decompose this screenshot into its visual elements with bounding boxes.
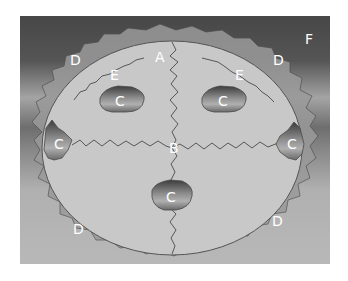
label-c-left: C: [54, 136, 64, 152]
label-a: A: [155, 49, 165, 65]
label-d-lower-right: D: [272, 213, 283, 229]
label-c-right: C: [287, 136, 297, 152]
label-e-right: E: [235, 67, 244, 83]
label-d-upper-right: D: [273, 52, 284, 68]
label-c-upper-left: C: [115, 93, 125, 109]
label-c-bottom: C: [166, 189, 176, 205]
label-f: F: [305, 31, 313, 47]
label-c-upper-right: C: [218, 93, 228, 109]
skull-diagram: A B C C C C C D D D D E E F: [0, 0, 348, 281]
label-e-left: E: [110, 67, 119, 83]
label-d-upper-left: D: [70, 52, 81, 68]
label-d-lower-left: D: [73, 221, 84, 237]
label-b: B: [169, 140, 179, 156]
